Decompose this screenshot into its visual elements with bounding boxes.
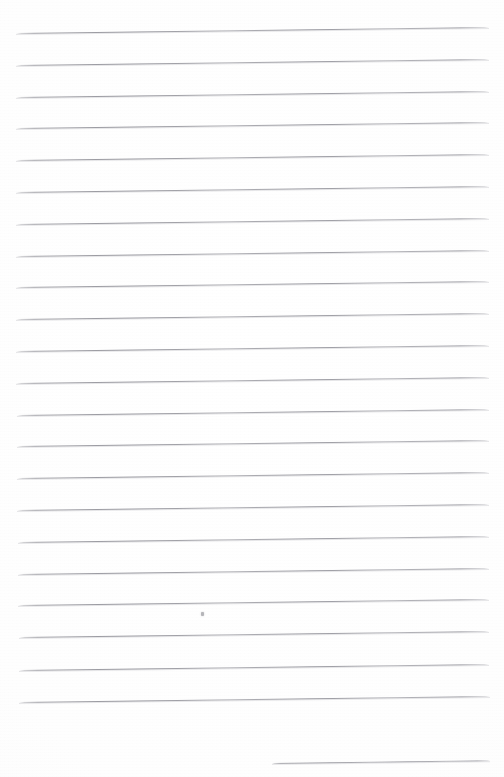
ruled-line [16, 122, 489, 129]
paper-grain-texture [0, 0, 504, 777]
ruled-line [16, 345, 489, 352]
ruled-line [19, 696, 490, 703]
ruled-line [18, 536, 489, 543]
ruled-line [16, 59, 489, 66]
ruled-line [16, 186, 489, 193]
ruled-line [16, 154, 489, 161]
ruled-line [18, 599, 489, 606]
scanned-page: Scanned sheet of blank ruled (lined) not… [0, 0, 504, 777]
ruled-line [18, 568, 489, 575]
ruled-line [16, 313, 489, 320]
ruled-line [16, 27, 489, 34]
ruled-line [16, 250, 489, 257]
ruled-line-partial [272, 760, 490, 764]
ruled-line [19, 664, 489, 671]
ruled-line [16, 91, 489, 98]
ruled-line [17, 440, 489, 447]
ruled-line [16, 377, 489, 384]
ruled-line [17, 409, 489, 416]
ruled-line [16, 281, 489, 288]
stray-speck-mark [201, 612, 204, 616]
ruled-line [17, 504, 489, 511]
ruled-line [16, 218, 489, 225]
ruled-line [19, 631, 489, 638]
ruled-line [17, 472, 489, 479]
page-description: Scanned sheet of blank ruled (lined) not… [0, 0, 1, 1]
